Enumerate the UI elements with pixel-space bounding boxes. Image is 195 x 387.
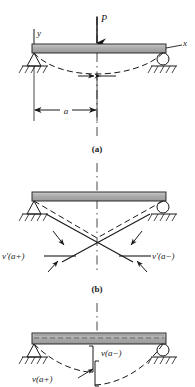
beam-deflection-figure: P y x [0,0,195,387]
y-axis-label-a: y [36,28,41,38]
caption-b: (b) [92,284,103,294]
roller-support-b [148,201,177,221]
pointer-lower-c [78,369,93,378]
angle-arrow-right-lower-b [137,261,147,272]
x-axis-leader-a [166,45,182,48]
panel-a: P y x [19,13,187,154]
tangent-dash-right-b [97,201,163,238]
pin-support-c [19,344,48,364]
figure-canvas: P y x [0,0,195,387]
deflection-curve-left-c [34,344,88,372]
panel-b: v'(a+) v'(a−) (b) [2,163,177,294]
angle-arrow-right-upper-b [131,231,142,245]
dimension-label-a: a [64,106,69,116]
roller-support-c [148,344,177,364]
deflection-lower-label-c: v(a+) [32,374,53,384]
discontinuity-bracket-lower-c [95,361,99,386]
angle-arrow-left-upper-b [53,231,64,245]
caption-a: (a) [92,144,103,154]
pin-support-b [19,201,48,221]
deflection-curve-a [34,53,163,74]
panel-c: v(a−) v(a+) [19,303,177,386]
beam-a [32,44,166,53]
pin-support-a [19,53,48,73]
beam-c [32,333,166,344]
slope-right-label-b: v'(a−) [152,251,175,261]
roller-support-a [148,53,177,73]
x-axis-label-a: x [182,38,187,48]
discontinuity-bracket-upper-c [89,346,93,372]
angle-arrow-left-lower-b [48,261,58,272]
beam-b [32,192,166,201]
deflection-upper-label-c: v(a−) [101,348,122,358]
load-label-a: P [100,13,107,24]
slope-left-label-b: v'(a+) [2,251,25,261]
